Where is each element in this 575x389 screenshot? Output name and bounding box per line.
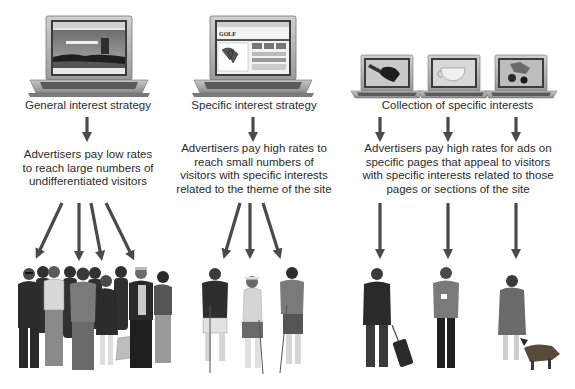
description-general: Advertisers pay low rates to reach large… xyxy=(0,148,176,189)
golf-site-logo: GOLF xyxy=(219,31,236,37)
description-line: undifferentiated visitors xyxy=(0,175,176,189)
column-label-general: General interest strategy xyxy=(0,99,176,111)
description-line: related to the theme of the site xyxy=(172,183,336,197)
audience-individuals xyxy=(363,267,560,370)
description-line: Advertisers pay high rates for ads on xyxy=(345,142,571,156)
arrow-fan-icon xyxy=(106,203,132,256)
description-line: reach small numbers of xyxy=(172,156,336,170)
column-label-specific: Specific interest strategy xyxy=(176,99,332,111)
description-line: to reach large numbers of xyxy=(0,162,176,176)
audience-crowd xyxy=(18,266,172,370)
laptop-pets-page xyxy=(485,55,557,98)
description-collection: Advertisers pay high rates for ads on sp… xyxy=(345,142,571,196)
description-line: visitors with specific interests xyxy=(172,169,336,183)
description-line: Advertisers pay low rates xyxy=(0,148,176,162)
laptop-suitcase-page xyxy=(351,55,423,98)
description-line: pages or sections of the site xyxy=(345,183,571,197)
column-label-collection: Collection of specific interests xyxy=(350,99,565,111)
laptop-coffee-page xyxy=(418,55,490,98)
coffee-drinker-figure xyxy=(433,267,459,368)
description-line: Advertisers pay high rates to xyxy=(172,142,336,156)
description-line: specific pages that appeal to visitors xyxy=(345,156,571,170)
business-traveler-figure xyxy=(363,268,414,368)
description-line: with specific interests related to those xyxy=(345,169,571,183)
arrow-fan-icon xyxy=(91,203,101,256)
arrow-fan-icon xyxy=(38,203,62,254)
arrows-to-descriptions xyxy=(87,117,516,137)
audience-golfers xyxy=(202,267,304,374)
laptop-general-interest xyxy=(28,16,150,97)
arrows-to-audience xyxy=(38,203,516,256)
woman-with-dog-figure xyxy=(498,275,560,370)
arrow-fan-icon xyxy=(225,203,240,254)
arrow-fan-icon xyxy=(263,203,279,254)
description-specific: Advertisers pay high rates to reach smal… xyxy=(172,142,336,196)
laptop-specific-interest: GOLF xyxy=(192,16,314,97)
